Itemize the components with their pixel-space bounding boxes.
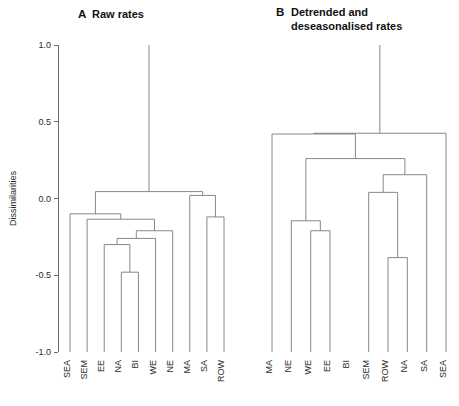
dendrogram-link [306, 159, 405, 221]
dendrogram-link [383, 175, 427, 352]
leaf-label: EE [96, 360, 106, 372]
dendrogram-link [311, 231, 330, 352]
y-axis: 1.00.50.0-0.5-1.0Dissimilarities [8, 40, 58, 357]
leaf-label: SEA [62, 360, 72, 378]
leaf-label: ROW [216, 360, 226, 383]
leaf-label: SEM [361, 360, 371, 380]
leaf-label: WE [148, 360, 158, 375]
dendrogram-link [95, 192, 202, 214]
panel-letter-A: A [78, 8, 86, 20]
dendrogram-panel-B: BDetrended anddeseasonalised ratesMANEWE… [264, 6, 448, 382]
dendrogram-figure: 1.00.50.0-0.5-1.0DissimilaritiesARaw rat… [0, 0, 459, 406]
leaf-label: SA [419, 360, 429, 372]
leaf-label: MA [182, 360, 192, 374]
panel-title-B: deseasonalised rates [291, 20, 402, 32]
leaf-label: NE [283, 360, 293, 373]
leaf-label: EE [322, 360, 332, 372]
dendrogram-link [121, 272, 138, 352]
leaf-label: ROW [380, 360, 390, 383]
dendrogram-panel-A: ARaw ratesSEASEMEENABIWENEMASAROW [62, 8, 226, 382]
y-tick-label: 0.0 [38, 194, 51, 204]
panel-letter-B: B [276, 6, 284, 18]
leaf-label: NA [113, 360, 123, 373]
y-tick-label: 0.5 [38, 117, 51, 127]
dendrogram-link [388, 258, 407, 352]
y-axis-title: Dissimilarities [8, 171, 18, 227]
panel-title-A: Raw rates [92, 8, 144, 20]
y-tick-label: -1.0 [35, 347, 51, 357]
dendrogram-link [272, 134, 355, 352]
dendrogram-link [104, 245, 130, 352]
dendrogram-link [136, 231, 172, 352]
dendrogram-link [314, 133, 446, 352]
leaf-label: WE [303, 360, 313, 375]
leaf-label: BI [341, 360, 351, 369]
dendrogram-link [207, 217, 224, 352]
dendrogram-link [117, 238, 156, 352]
dendrogram-link [70, 214, 121, 352]
leaf-label: SA [199, 360, 209, 372]
dendrogram-link [369, 192, 398, 352]
panel-title-B: Detrended and [291, 6, 368, 18]
leaf-label: NA [399, 360, 409, 373]
leaf-label: MA [264, 360, 274, 374]
y-tick-label: -0.5 [35, 270, 51, 280]
leaf-label: SEA [438, 360, 448, 378]
dendrogram-link [87, 219, 154, 352]
dendrogram-link [291, 221, 320, 352]
leaf-label: BI [130, 360, 140, 369]
y-tick-label: 1.0 [38, 40, 51, 50]
leaf-label: SEM [79, 360, 89, 380]
leaf-label: NE [165, 360, 175, 373]
dendrogram-link [190, 195, 216, 352]
